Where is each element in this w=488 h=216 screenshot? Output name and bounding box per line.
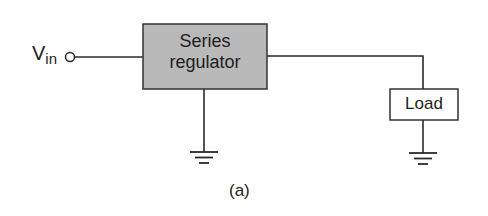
output-wire: [267, 56, 423, 89]
input-terminal-icon: [66, 53, 75, 62]
ground-icon: [409, 153, 437, 164]
series-regulator-diagram: Vin Series regulator Load (a): [0, 0, 488, 216]
series-regulator-line2: regulator: [143, 52, 267, 73]
input-voltage-label: Vin: [32, 42, 57, 67]
input-voltage-subscript: in: [45, 50, 57, 67]
input-voltage-symbol: V: [32, 42, 45, 64]
series-regulator-line1: Series: [143, 31, 267, 52]
ground-icon: [190, 152, 218, 163]
series-regulator-label: Series regulator: [143, 31, 267, 72]
figure-caption: (a): [229, 181, 250, 201]
load-label: Load: [390, 94, 458, 114]
